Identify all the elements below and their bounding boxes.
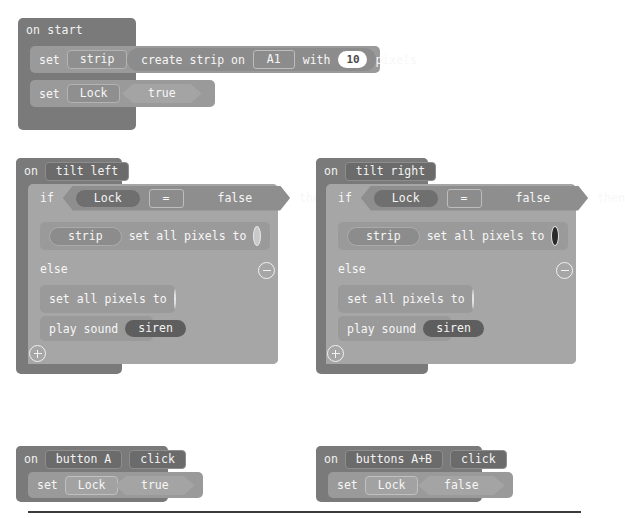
variable-field-lock[interactable]: Lock bbox=[365, 476, 419, 495]
boolean-false-left[interactable]: false bbox=[192, 189, 279, 208]
if-keyword: if bbox=[40, 191, 54, 205]
boolean-true-start[interactable]: true bbox=[122, 82, 202, 103]
tilt-direction-dropdown[interactable]: tilt left bbox=[45, 162, 129, 181]
minus-circle-icon[interactable] bbox=[258, 262, 275, 279]
variable-getter-lock[interactable]: Lock bbox=[75, 189, 141, 208]
if-keyword: if bbox=[338, 191, 352, 205]
operator-dropdown[interactable]: = bbox=[447, 189, 482, 208]
operator-dropdown[interactable]: = bbox=[149, 189, 184, 208]
if-row-left[interactable]: if Lock = false then bbox=[28, 185, 278, 211]
set-keyword: set bbox=[337, 478, 358, 492]
on-buttons-ab-header[interactable]: on buttons A+B click bbox=[316, 446, 482, 472]
on-tilt-right-header[interactable]: on tilt right bbox=[316, 158, 428, 184]
plus-circle-icon[interactable] bbox=[327, 345, 344, 362]
tilt-direction-dropdown[interactable]: tilt right bbox=[345, 162, 436, 181]
variable-field-lock[interactable]: Lock bbox=[65, 476, 119, 495]
button-dropdown-ab[interactable]: buttons A+B bbox=[345, 450, 443, 469]
set-keyword: set bbox=[39, 87, 60, 101]
boolean-false-buttons-ab[interactable]: false bbox=[418, 474, 505, 495]
script-on-start[interactable]: on start bbox=[18, 18, 136, 130]
set-all-pixels-label: set all pixels to bbox=[129, 229, 247, 243]
variable-getter-strip[interactable]: strip bbox=[49, 227, 122, 246]
if-else-footer-left bbox=[28, 342, 278, 364]
variable-getter-lock[interactable]: Lock bbox=[373, 189, 439, 208]
action-dropdown-click[interactable]: click bbox=[450, 450, 507, 469]
button-dropdown-a[interactable]: button A bbox=[45, 450, 122, 469]
else-keyword: else bbox=[40, 262, 68, 276]
boolean-false-right[interactable]: false bbox=[490, 189, 577, 208]
variable-field-lock[interactable]: Lock bbox=[67, 84, 121, 103]
on-start-header[interactable]: on start bbox=[18, 18, 92, 42]
pixel-count-field[interactable]: 10 bbox=[338, 51, 367, 68]
on-tilt-left-header[interactable]: on tilt left bbox=[16, 158, 122, 184]
plus-circle-icon[interactable] bbox=[29, 345, 46, 362]
on-keyword: on bbox=[324, 164, 338, 178]
with-keyword: with bbox=[303, 53, 331, 67]
variable-field-strip[interactable]: strip bbox=[67, 50, 128, 69]
color-swatch-dark[interactable] bbox=[174, 289, 176, 309]
if-row-right[interactable]: if Lock = false then bbox=[326, 185, 576, 211]
variable-getter-strip[interactable]: strip bbox=[347, 227, 420, 246]
pixels-keyword: pixels bbox=[375, 53, 417, 67]
if-else-footer-right bbox=[326, 342, 576, 364]
reporter-create-strip[interactable]: create strip on A1 with 10 pixels bbox=[127, 48, 376, 71]
on-keyword: on bbox=[324, 452, 338, 466]
statement-set-all-pixels-left[interactable]: set all pixels to bbox=[40, 285, 175, 313]
pin-dropdown-a1[interactable]: A1 bbox=[253, 50, 295, 69]
statement-play-sound-left[interactable]: play sound siren bbox=[40, 316, 153, 341]
comparison-block-right[interactable]: Lock = false bbox=[361, 186, 588, 211]
set-all-pixels-label: set all pixels to bbox=[49, 292, 167, 306]
action-dropdown-click[interactable]: click bbox=[129, 450, 186, 469]
color-swatch-dark[interactable] bbox=[472, 289, 474, 309]
statement-play-sound-right[interactable]: play sound siren bbox=[338, 316, 451, 341]
boolean-true-button-a[interactable]: true bbox=[115, 474, 195, 495]
set-keyword: set bbox=[39, 53, 60, 67]
sound-dropdown-siren[interactable]: siren bbox=[125, 320, 186, 337]
play-sound-label: play sound bbox=[347, 322, 416, 336]
on-start-label: on start bbox=[26, 23, 83, 37]
on-button-a-header[interactable]: on button A click bbox=[16, 446, 168, 472]
else-row-right[interactable]: else bbox=[326, 256, 576, 282]
set-all-pixels-label: set all pixels to bbox=[427, 229, 545, 243]
statement-strip-set-all-pixels-left[interactable]: strip set all pixels to bbox=[40, 222, 270, 250]
else-row-left[interactable]: else bbox=[28, 256, 278, 282]
play-sound-label: play sound bbox=[49, 322, 118, 336]
statement-strip-set-all-pixels-right[interactable]: strip set all pixels to bbox=[338, 222, 568, 250]
set-keyword: set bbox=[37, 478, 58, 492]
create-strip-prefix: create strip on bbox=[141, 53, 245, 67]
page-divider bbox=[28, 511, 581, 513]
then-keyword: then bbox=[597, 191, 625, 205]
on-keyword: on bbox=[24, 452, 38, 466]
set-all-pixels-label: set all pixels to bbox=[347, 292, 465, 306]
minus-circle-icon[interactable] bbox=[556, 262, 573, 279]
color-swatch-light[interactable] bbox=[253, 226, 261, 246]
statement-set-all-pixels-right[interactable]: set all pixels to bbox=[338, 285, 473, 313]
color-swatch-black[interactable] bbox=[551, 226, 559, 246]
comparison-block-left[interactable]: Lock = false bbox=[63, 186, 290, 211]
sound-dropdown-siren[interactable]: siren bbox=[423, 320, 484, 337]
else-keyword: else bbox=[338, 262, 366, 276]
on-keyword: on bbox=[24, 164, 38, 178]
